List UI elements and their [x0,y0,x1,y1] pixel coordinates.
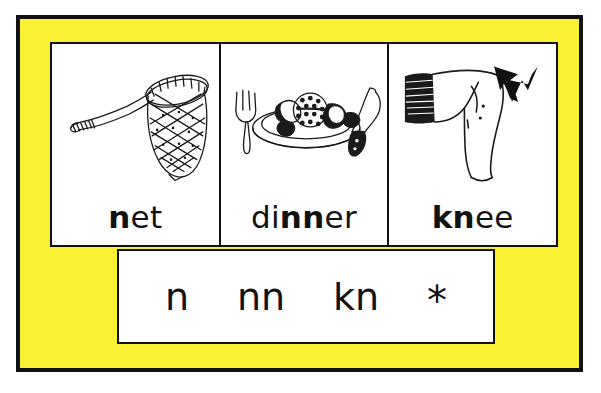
word-remainder: ee [475,199,514,235]
word-label-net: net [52,189,219,245]
grapheme-highlight: nn [280,199,325,235]
word-card-knee[interactable]: knee [387,44,556,245]
dinner-plate-icon [221,44,388,189]
grapheme-highlight: kn [432,199,475,235]
fishing-net-icon [52,44,219,189]
word-label-dinner: dinner [221,189,388,245]
grapheme-nn[interactable]: nn [237,278,285,316]
word-remainder: et [131,199,163,235]
fishing-net-drawing [52,44,219,189]
word-card-net[interactable]: net [52,44,219,245]
word-remainder: er [325,199,357,235]
knee-drawing [389,44,556,189]
grapheme-asterisk[interactable]: * [427,281,447,321]
word-card-strip: net [50,42,558,247]
phonics-poster: net [16,15,583,372]
grapheme-n[interactable]: n [165,278,189,316]
grapheme-kn[interactable]: kn [333,278,379,316]
word-label-knee: knee [389,189,556,245]
knee-icon [389,44,556,189]
word-prefix: di [251,199,280,235]
grapheme-list-box: n nn kn * [117,249,495,344]
grapheme-highlight: n [108,199,130,235]
word-card-dinner[interactable]: dinner [219,44,388,245]
dinner-plate-drawing [221,44,388,189]
